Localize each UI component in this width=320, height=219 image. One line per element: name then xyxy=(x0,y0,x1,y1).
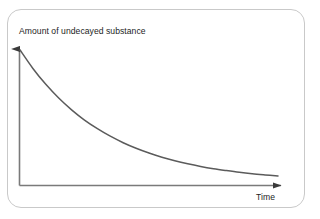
y-axis-label: Amount of undecayed substance xyxy=(19,26,146,36)
figure-root: Amount of undecayed substance Time xyxy=(0,0,320,219)
x-axis-label: Time xyxy=(256,192,275,202)
decay-curve xyxy=(20,50,278,176)
